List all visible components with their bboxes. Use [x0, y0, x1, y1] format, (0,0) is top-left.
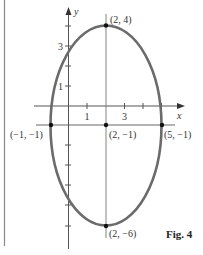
y-axis-arrow-icon [66, 7, 72, 15]
ellipse-figure: y x 1 3 1 3 (2, 4) (−1, −1) (2, −1) (5, … [0, 0, 203, 255]
x-axis-arrow-icon [177, 103, 185, 109]
x-tick-label-3: 3 [122, 111, 127, 122]
point-center [104, 123, 108, 127]
point-bottom-vertex [104, 224, 108, 228]
point-left-vertex [49, 123, 53, 127]
point-top-vertex [104, 23, 108, 27]
point-label-bottom: (2, −6) [109, 228, 136, 240]
point-label-top: (2, 4) [110, 14, 132, 26]
y-axis-label: y [73, 6, 79, 17]
x-tick-label-1: 1 [85, 111, 90, 122]
x-axis-label: x [176, 110, 182, 121]
y-axis [65, 7, 72, 249]
x-axis [34, 103, 185, 109]
point-label-left: (−1, −1) [10, 129, 43, 141]
point-label-center: (2, −1) [109, 129, 136, 141]
point-right-vertex [160, 123, 164, 127]
point-label-right: (5, −1) [164, 129, 191, 141]
y-tick-label-1: 1 [58, 81, 63, 92]
y-tick-label-3: 3 [58, 41, 63, 52]
figure-caption: Fig. 4 [166, 228, 193, 240]
